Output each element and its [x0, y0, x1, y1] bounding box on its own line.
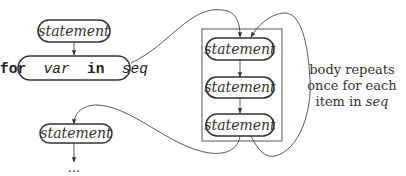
node-label: statement [204, 79, 276, 95]
annotation-line-1: body repeats [309, 62, 395, 77]
continuation-ellipsis: ... [68, 160, 80, 175]
loop-variable: var [44, 61, 79, 77]
node-statement-before: statement [38, 20, 110, 42]
sequence-name: seq [122, 61, 148, 77]
keyword-in: in [87, 61, 113, 77]
node-label: statement [38, 23, 110, 39]
node-for-header: for var in seq [0, 56, 148, 80]
node-statement-after: statement [40, 124, 112, 143]
node-body-statement-1: statement [204, 38, 276, 60]
for-loop-flow-diagram: statement for var in seq statement state… [0, 0, 406, 176]
node-label: statement [204, 117, 276, 133]
node-label: statement [204, 41, 276, 57]
annotation-line-3: item in seq [316, 94, 389, 109]
node-body-statement-2: statement [204, 77, 276, 98]
node-body-statement-3: statement [204, 114, 276, 136]
loop-annotation: body repeats once for each item in seq [307, 62, 397, 109]
for-statement-code: for var in seq [0, 61, 148, 77]
annotation-seq: seq [366, 94, 389, 109]
annotation-line-3-prefix: item in [316, 94, 366, 109]
annotation-line-2: once for each [307, 78, 397, 93]
keyword-for: for [0, 61, 35, 77]
diagram-svg: statement for var in seq statement state… [0, 0, 406, 176]
node-label: statement [40, 125, 112, 141]
